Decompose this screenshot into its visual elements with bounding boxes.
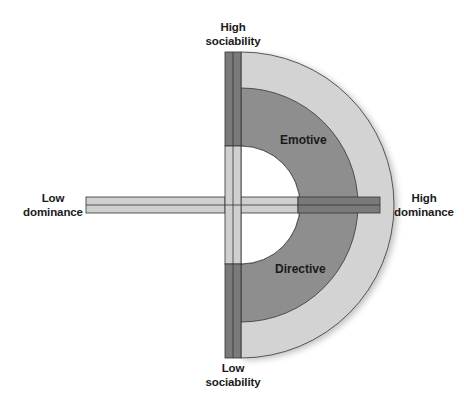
axis-label-high-dominance: High dominance [393,191,455,219]
region-label-emotive: Emotive [280,133,327,147]
axis-label-low-sociability: Low sociability [200,361,266,389]
axis-label-low-dominance: Low dominance [22,191,84,219]
region-label-directive: Directive [275,262,326,276]
axis-label-high-sociability: High sociability [200,20,266,48]
